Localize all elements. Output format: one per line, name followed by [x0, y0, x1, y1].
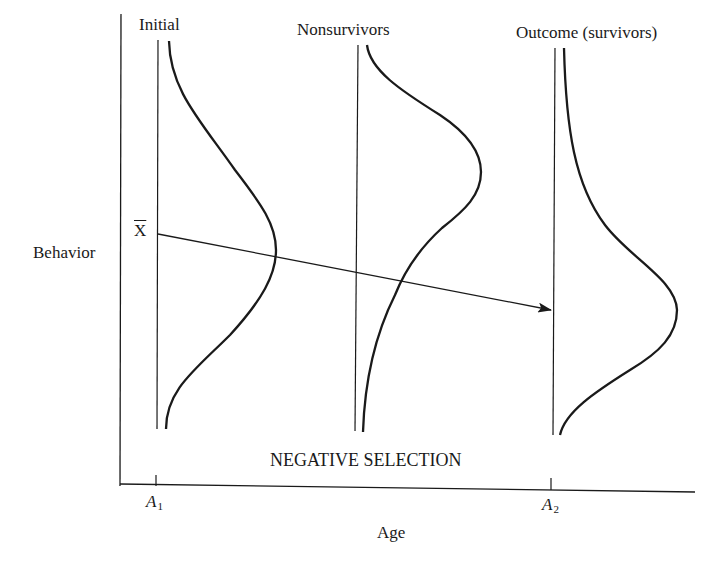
tick-label-a1-text: A: [146, 492, 156, 511]
diagram-canvas: [0, 0, 721, 563]
label-outcome-survivors: Outcome (survivors): [516, 24, 657, 41]
label-nonsurvivors: Nonsurvivors: [297, 21, 390, 38]
tick-label-a2: A2: [542, 496, 559, 515]
nonsurvivors-baseline: [355, 45, 358, 431]
tick-label-a2-text: A: [542, 495, 552, 514]
tick-label-a1: A1: [146, 493, 163, 512]
nonsurvivors-curve: [363, 45, 481, 432]
y-axis-label: Behavior: [33, 244, 95, 261]
initial-baseline: [157, 40, 158, 429]
diagram-title: NEGATIVE SELECTION: [270, 451, 461, 469]
tick-label-a2-subscript: 2: [553, 503, 559, 515]
outcome-curve: [560, 48, 677, 435]
y-axis: [120, 14, 121, 486]
initial-curve: [166, 41, 276, 429]
tick-label-a1-subscript: 1: [157, 500, 163, 512]
mean-shift-arrow: [158, 234, 551, 310]
x-axis: [120, 484, 695, 492]
mean-label-x-bar: X: [134, 222, 146, 239]
outcome-baseline: [553, 48, 555, 435]
label-initial: Initial: [139, 16, 180, 33]
x-axis-label: Age: [377, 524, 405, 541]
